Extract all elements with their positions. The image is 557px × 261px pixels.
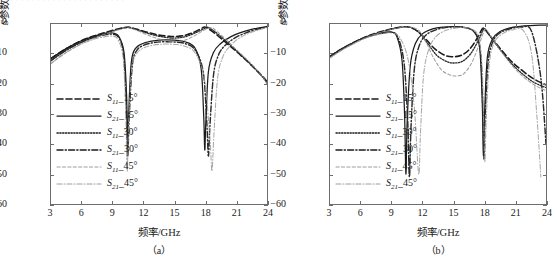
x-axis-tick-mark <box>237 201 238 205</box>
legend-line-sample <box>335 128 381 138</box>
y-axis-tick-label: −30 <box>252 108 286 118</box>
y-axis-tick-label: −60 <box>252 199 286 209</box>
legend-item-label: S11_15° <box>386 92 416 106</box>
y-axis-tick-mark <box>329 175 333 176</box>
legend-item-label: S21_45° <box>107 177 138 191</box>
y-axis-tick-label: −30 <box>0 108 7 118</box>
legend-item-label: S21_15° <box>386 109 417 123</box>
y-axis-tick-mark <box>329 205 333 206</box>
y-axis-tick-label: −50 <box>252 169 286 179</box>
legend-line-sample <box>56 179 102 189</box>
x-axis-tick-mark <box>454 201 455 205</box>
y-axis-tick-mark <box>543 53 547 54</box>
y-axis-tick-mark <box>329 144 333 145</box>
legend-item-label: S11_15° <box>107 92 137 106</box>
legend-item: S11_30° <box>56 124 138 141</box>
legend-item: S11_15° <box>335 90 417 107</box>
legend-line-sample <box>56 111 102 121</box>
x-axis-tick-label: 6 <box>347 208 373 218</box>
x-axis-tick-mark <box>391 23 392 27</box>
x-axis-tick-mark <box>143 201 144 205</box>
panel-caption-a: （a） <box>50 242 268 257</box>
y-axis-tick-label: −40 <box>252 138 286 148</box>
x-axis-tick-mark <box>516 23 517 27</box>
x-axis-tick-mark <box>485 23 486 27</box>
x-axis-tick-label: 3 <box>37 208 63 218</box>
y-axis-tick-mark <box>329 114 333 115</box>
panel-caption-b: （b） <box>329 242 547 257</box>
legend-item-label: S21_30° <box>386 143 417 157</box>
x-axis-tick-mark <box>50 201 51 205</box>
x-axis-tick-label: 3 <box>316 208 342 218</box>
x-axis-tick-mark <box>50 23 51 27</box>
x-axis-tick-label: 21 <box>224 208 250 218</box>
legend-item-label: S11_45° <box>107 160 137 174</box>
x-axis-tick-mark <box>329 23 330 27</box>
x-axis-tick-label: 9 <box>99 208 125 218</box>
x-axis-tick-mark <box>206 201 207 205</box>
x-axis-tick-mark <box>81 23 82 27</box>
y-axis-tick-label: −40 <box>0 138 7 148</box>
x-axis-tick-mark <box>360 201 361 205</box>
y-axis-tick-mark <box>50 114 54 115</box>
x-axis-tick-mark <box>485 201 486 205</box>
x-axis-tick-label: 18 <box>193 208 219 218</box>
x-axis-label-a: 频率/GHz <box>50 224 268 239</box>
y-axis-tick-label: −10 <box>0 47 7 57</box>
legend-line-sample <box>56 94 102 104</box>
figure-panel-b: S参数/dB 频率/GHz （b） S11_15°S21_15°S11_30°S… <box>279 0 557 261</box>
y-axis-tick-mark <box>543 175 547 176</box>
legend-item-label: S21_30° <box>107 143 138 157</box>
x-axis-tick-mark <box>391 201 392 205</box>
x-axis-tick-mark <box>360 23 361 27</box>
y-axis-tick-label: −20 <box>0 78 7 88</box>
legend-item: S11_45° <box>335 158 417 175</box>
legend-item: S11_15° <box>56 90 138 107</box>
legend-line-sample <box>56 162 102 172</box>
y-axis-tick-label: −60 <box>0 199 7 209</box>
x-axis-tick-mark <box>175 201 176 205</box>
x-axis-tick-label: 18 <box>472 208 498 218</box>
legend-item: S21_15° <box>56 107 138 124</box>
y-axis-tick-mark <box>50 175 54 176</box>
legend-item: S11_30° <box>335 124 417 141</box>
x-axis-tick-mark <box>454 23 455 27</box>
series-curve <box>51 27 267 83</box>
y-axis-tick-mark <box>50 205 54 206</box>
x-axis-tick-label: 9 <box>378 208 404 218</box>
x-axis-tick-label: 12 <box>130 208 156 218</box>
x-axis-tick-mark <box>81 201 82 205</box>
legend-item: S21_30° <box>56 141 138 158</box>
y-axis-tick-mark <box>329 84 333 85</box>
x-axis-tick-label: 12 <box>409 208 435 218</box>
legend-item: S21_30° <box>335 141 417 158</box>
legend-item-label: S11_30° <box>107 126 137 140</box>
y-axis-tick-label: −10 <box>252 47 286 57</box>
x-axis-tick-mark <box>143 23 144 27</box>
series-curve <box>330 27 546 91</box>
x-axis-tick-mark <box>175 23 176 27</box>
figure-panel-a: S参数/dB 频率/GHz （a） S11_15°S21_15°S11_30°S… <box>0 0 278 261</box>
x-axis-tick-mark <box>547 23 548 27</box>
x-axis-tick-label: 6 <box>68 208 94 218</box>
legend-item-label: S11_30° <box>386 126 416 140</box>
x-axis-tick-mark <box>237 23 238 27</box>
x-axis-tick-label: 15 <box>441 208 467 218</box>
x-axis-tick-mark <box>422 23 423 27</box>
x-axis-tick-mark <box>422 201 423 205</box>
y-axis-tick-mark <box>543 205 547 206</box>
x-axis-tick-mark <box>112 23 113 27</box>
legend-item: S21_45° <box>335 175 417 192</box>
y-axis-tick-mark <box>329 53 333 54</box>
y-axis-tick-label: −50 <box>0 169 7 179</box>
y-axis-tick-mark <box>50 84 54 85</box>
x-axis-tick-label: 15 <box>162 208 188 218</box>
legend-line-sample <box>335 162 381 172</box>
x-axis-tick-label: 21 <box>503 208 529 218</box>
legend-item: S21_15° <box>335 107 417 124</box>
legend-line-sample <box>56 128 102 138</box>
legend-item-label: S21_15° <box>107 109 138 123</box>
legend-line-sample <box>335 94 381 104</box>
legend-item: S11_45° <box>56 158 138 175</box>
x-axis-tick-label: 24 <box>255 208 281 218</box>
